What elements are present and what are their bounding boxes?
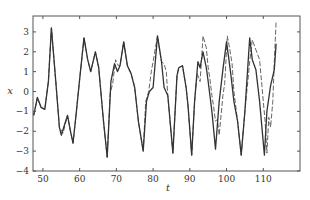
- y-tick-label: −1: [16, 106, 29, 116]
- y-tick-label: 1: [23, 67, 29, 77]
- x-axis-ticks: 5060708090100110: [37, 16, 272, 184]
- x-tick-label: 100: [218, 174, 235, 184]
- y-tick-label: 0: [23, 87, 29, 97]
- plot-area: [33, 16, 300, 171]
- x-axis-label: t: [166, 182, 171, 193]
- y-tick-label: −2: [16, 126, 29, 136]
- x-tick-label: 110: [255, 174, 272, 184]
- x-tick-label: 90: [184, 174, 196, 184]
- y-tick-label: −3: [16, 146, 30, 156]
- series-true: [34, 28, 276, 157]
- y-tick-label: 2: [23, 47, 29, 57]
- series-layer: [34, 22, 276, 157]
- y-tick-label: 3: [23, 27, 29, 37]
- x-tick-label: 80: [147, 174, 159, 184]
- x-tick-label: 50: [37, 174, 49, 184]
- y-axis-ticks: −4−3−2−10123: [16, 27, 300, 176]
- y-tick-label: −4: [16, 166, 30, 176]
- x-tick-label: 70: [111, 174, 123, 184]
- y-axis-label: x: [7, 85, 13, 96]
- line-chart: 5060708090100110 −4−3−2−10123 t x: [0, 0, 310, 200]
- x-tick-label: 60: [74, 174, 86, 184]
